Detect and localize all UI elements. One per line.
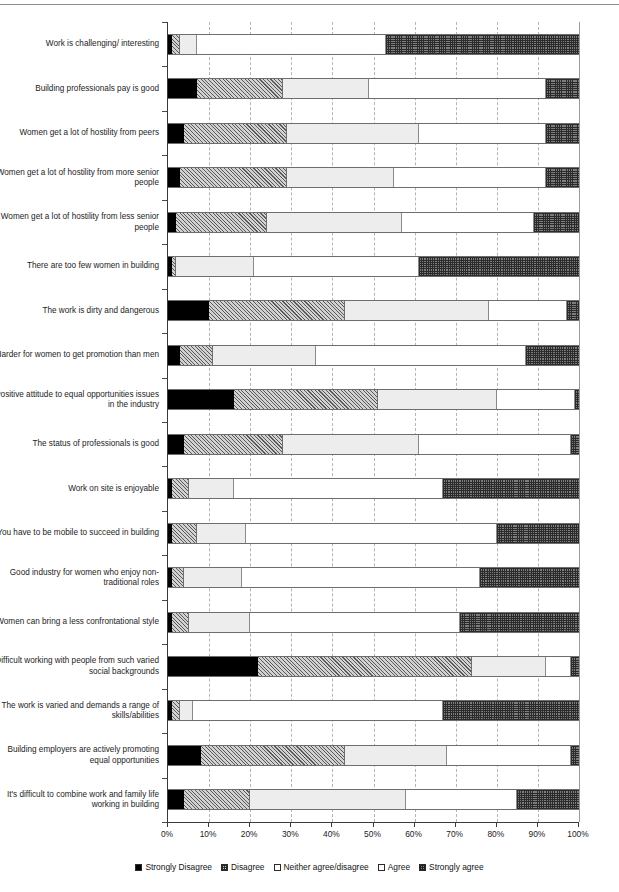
bar-row: The work is dirty and dangerous xyxy=(168,300,579,321)
x-tick xyxy=(208,822,209,827)
bar-rows: Work is challenging/ interestingBuilding… xyxy=(168,22,579,822)
bar-segment-sa xyxy=(546,124,579,143)
stacked-bar xyxy=(168,523,579,544)
bar-segment-n xyxy=(287,124,419,143)
bar-segment-d xyxy=(172,701,180,720)
bar-segment-d xyxy=(172,568,184,587)
bar-segment-sa xyxy=(534,213,579,232)
bar-row: Building employers are actively promotin… xyxy=(168,745,579,766)
bar-segment-n xyxy=(184,568,242,587)
legend-item: Strongly agree xyxy=(419,862,483,872)
category-label: The status of professionals is good xyxy=(0,439,159,450)
bar-segment-n xyxy=(213,346,316,365)
y-tick xyxy=(162,155,167,156)
stacked-bar xyxy=(168,389,579,410)
x-tick-label: 40% xyxy=(323,829,340,839)
x-tick-label: 10% xyxy=(200,829,217,839)
category-label: Women get a lot of hostility from peers xyxy=(0,128,159,139)
x-tick xyxy=(167,822,168,827)
stacked-bar xyxy=(168,212,579,233)
legend-swatch-n xyxy=(274,864,281,871)
bar-segment-sa xyxy=(497,524,579,543)
bar-segment-a xyxy=(197,35,386,54)
category-label: Positive attitude to equal opportunities… xyxy=(0,389,159,410)
x-tick-label: 0% xyxy=(161,829,173,839)
x-tick-label: 90% xyxy=(529,829,546,839)
bar-segment-n xyxy=(180,701,192,720)
bar-row: Difficult working with people from such … xyxy=(168,656,579,677)
y-tick xyxy=(162,200,167,201)
bar-segment-d xyxy=(180,346,213,365)
bar-segment-n xyxy=(267,213,403,232)
bar-row: The status of professionals is good xyxy=(168,434,579,455)
category-label: Good industry for women who enjoy non-tr… xyxy=(0,567,159,588)
x-tick xyxy=(373,822,374,827)
bar-segment-sa xyxy=(443,479,579,498)
legend-item: Strongly Disagree xyxy=(135,862,212,872)
page-top-rule xyxy=(0,4,619,5)
plot-area: Work is challenging/ interestingBuilding… xyxy=(167,22,580,822)
legend-item: Neither agree/disagree xyxy=(274,862,369,872)
bar-segment-d xyxy=(184,124,287,143)
x-tick xyxy=(455,822,456,827)
x-tick-label: 100% xyxy=(567,829,588,839)
category-label: Work on site is enjoyable xyxy=(0,483,159,494)
bar-segment-d xyxy=(184,790,250,809)
bar-segment-n xyxy=(472,657,546,676)
bar-segment-a xyxy=(402,213,534,232)
stacked-bar-chart: Work is challenging/ interestingBuilding… xyxy=(0,0,619,892)
bar-segment-sd xyxy=(168,168,180,187)
bar-segment-n xyxy=(287,168,394,187)
bar-row: Work on site is enjoyable xyxy=(168,478,579,499)
stacked-bar xyxy=(168,478,579,499)
stacked-bar xyxy=(168,167,579,188)
bar-segment-sa xyxy=(567,301,579,320)
category-label: Difficult working with people from such … xyxy=(0,656,159,677)
bar-row: There are too few women in building xyxy=(168,256,579,277)
bar-segment-sa xyxy=(571,435,579,454)
bar-segment-a xyxy=(246,524,497,543)
category-label: You have to be mobile to succeed in buil… xyxy=(0,528,159,539)
category-label: Women get a lot of hostility from more s… xyxy=(0,167,159,188)
y-tick xyxy=(162,378,167,379)
bar-row: The work is varied and demands a range o… xyxy=(168,700,579,721)
bar-segment-sa xyxy=(571,657,579,676)
bar-segment-n xyxy=(345,301,489,320)
bar-segment-a xyxy=(369,79,546,98)
y-tick xyxy=(162,244,167,245)
bar-row: Positive attitude to equal opportunities… xyxy=(168,389,579,410)
bar-segment-sa xyxy=(546,168,579,187)
y-tick xyxy=(162,466,167,467)
stacked-bar xyxy=(168,745,579,766)
category-label: There are too few women in building xyxy=(0,261,159,272)
bar-segment-sa xyxy=(386,35,579,54)
bar-segment-d xyxy=(201,746,345,765)
bar-segment-n xyxy=(250,790,406,809)
stacked-bar xyxy=(168,34,579,55)
x-tick xyxy=(290,822,291,827)
y-tick xyxy=(162,422,167,423)
bar-row: Work is challenging/ interesting xyxy=(168,34,579,55)
category-label: Building professionals pay is good xyxy=(0,83,159,94)
gridline-100pct xyxy=(579,22,580,822)
y-tick xyxy=(162,689,167,690)
chart-legend: Strongly DisagreeDisagreeNeither agree/d… xyxy=(0,862,619,872)
stacked-bar xyxy=(168,789,579,810)
stacked-bar xyxy=(168,656,579,677)
bar-segment-sa xyxy=(443,701,579,720)
y-tick xyxy=(162,778,167,779)
category-label: Work is challenging/ interesting xyxy=(0,39,159,50)
x-tick-label: 30% xyxy=(282,829,299,839)
bar-segment-sd xyxy=(168,346,180,365)
category-label: The work is varied and demands a range o… xyxy=(0,700,159,721)
stacked-bar xyxy=(168,300,579,321)
bar-segment-sa xyxy=(526,346,579,365)
legend-swatch-a xyxy=(378,864,385,871)
bar-segment-d xyxy=(180,168,287,187)
legend-label: Agree xyxy=(388,862,410,872)
y-tick xyxy=(162,822,167,823)
y-tick xyxy=(162,22,167,23)
bar-segment-d xyxy=(172,524,197,543)
bar-segment-d xyxy=(258,657,472,676)
category-label: Women can bring a less confrontational s… xyxy=(0,617,159,628)
